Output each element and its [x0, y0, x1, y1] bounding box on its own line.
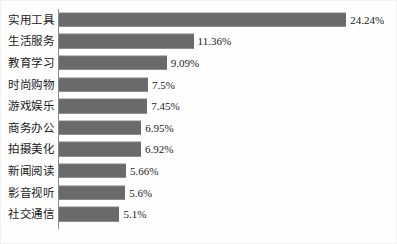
bar-value-label: 5.1%: [123, 208, 146, 220]
bar-row[interactable]: 时尚购物7.5%: [0, 74, 397, 96]
bar-value-label: 11.36%: [198, 35, 232, 47]
bar-value-label: 6.92%: [145, 143, 173, 155]
bar-value-label: 6.95%: [145, 122, 173, 134]
bar-row[interactable]: 实用工具24.24%: [0, 9, 397, 31]
category-label: 新闻阅读: [8, 164, 54, 177]
bar-value-label: 7.45%: [151, 100, 179, 112]
bar-value-label: 5.6%: [129, 187, 152, 199]
bar-row[interactable]: 游戏娱乐7.45%: [0, 95, 397, 117]
plot-area: 实用工具24.24%生活服务11.36%教育学习9.09%时尚购物7.5%游戏娱…: [0, 0, 397, 244]
category-label: 时尚购物: [8, 78, 54, 91]
bar-value-label: 24.24%: [350, 14, 384, 26]
bar-row[interactable]: 商务办公6.95%: [0, 117, 397, 139]
bar-value-label: 9.09%: [171, 57, 199, 69]
bar-value-label: 7.5%: [152, 79, 175, 91]
bar[interactable]: [59, 164, 126, 179]
bar[interactable]: [59, 34, 194, 49]
bar[interactable]: [59, 13, 346, 28]
category-label: 实用工具: [8, 13, 54, 26]
bar-chart: 实用工具24.24%生活服务11.36%教育学习9.09%时尚购物7.5%游戏娱…: [0, 0, 397, 244]
category-label: 社交通信: [8, 208, 54, 221]
bar[interactable]: [59, 185, 125, 200]
bar-value-label: 5.66%: [130, 165, 158, 177]
bar-row[interactable]: 影音视听5.6%: [0, 182, 397, 204]
category-label: 影音视听: [8, 186, 54, 199]
category-label: 教育学习: [8, 56, 54, 69]
bar-row[interactable]: 教育学习9.09%: [0, 52, 397, 74]
bar-row[interactable]: 拍摄美化6.92%: [0, 139, 397, 161]
bar[interactable]: [59, 77, 148, 92]
bar[interactable]: [59, 56, 167, 71]
bar[interactable]: [59, 121, 141, 136]
bar-row[interactable]: 生活服务11.36%: [0, 31, 397, 53]
bar[interactable]: [59, 142, 141, 157]
bar[interactable]: [59, 99, 147, 114]
bar-row[interactable]: 社交通信5.1%: [0, 203, 397, 225]
category-label: 生活服务: [8, 35, 54, 48]
bar-row[interactable]: 新闻阅读5.66%: [0, 160, 397, 182]
category-label: 游戏娱乐: [8, 100, 54, 113]
category-label: 拍摄美化: [8, 143, 54, 156]
category-label: 商务办公: [8, 121, 54, 134]
bar[interactable]: [59, 207, 119, 222]
